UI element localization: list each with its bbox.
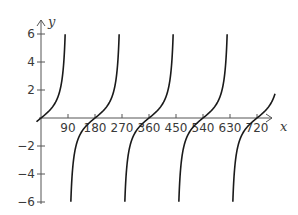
- x-tick-label: 90: [60, 121, 75, 135]
- x-tick-label: 540: [192, 121, 215, 135]
- y-tick-label: 2: [27, 83, 35, 97]
- y-tick-label: −4: [17, 167, 35, 181]
- x-tick-label: 360: [138, 121, 161, 135]
- x-tick-label: 450: [165, 121, 188, 135]
- y-tick-label: −2: [17, 139, 35, 153]
- x-tick-label: 630: [219, 121, 242, 135]
- tangent-branch: [233, 94, 275, 202]
- x-axis-label: x: [280, 119, 288, 134]
- y-tick-label: 6: [27, 27, 35, 41]
- x-tick-label: 720: [246, 121, 269, 135]
- tangent-chart: 90180270360450540630720−6−4−2246 x y: [0, 0, 298, 215]
- y-tick-label: −6: [17, 195, 35, 209]
- x-tick-label: 180: [84, 121, 107, 135]
- x-tick-label: 270: [111, 121, 134, 135]
- y-axis-label: y: [47, 14, 56, 29]
- y-tick-label: 4: [27, 55, 35, 69]
